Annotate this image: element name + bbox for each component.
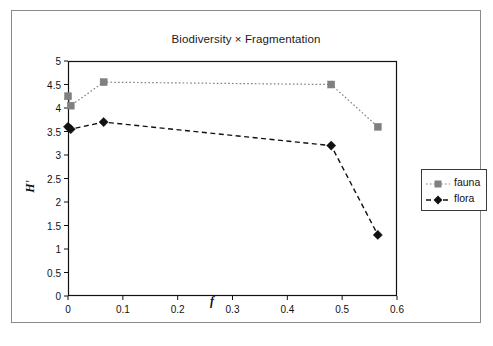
plot-area: 00.511.522.533.544.55 00.10.20.30.40.50.… <box>12 11 482 324</box>
plot-svg <box>12 11 482 324</box>
y-tick-label: 0.5 <box>47 267 61 278</box>
y-tick-label: 4 <box>55 103 61 114</box>
legend-label: flora <box>454 193 474 204</box>
data-point-fauna-0 <box>65 93 72 100</box>
series-line-flora <box>68 122 378 235</box>
y-tick-label: 2 <box>55 197 61 208</box>
data-point-fauna-2 <box>100 79 107 86</box>
figure-frame: Biodiversity × Fragmentation 00.511.522.… <box>11 10 481 323</box>
data-point-fauna-4 <box>374 123 381 130</box>
y-axis-title: H' <box>23 180 38 193</box>
y-tick-label: 1 <box>55 244 61 255</box>
y-tick-label: 1.5 <box>47 220 61 231</box>
y-tick-label: 3.5 <box>47 126 61 137</box>
legend-swatch-diamond-icon <box>425 192 451 204</box>
legend-swatch-square-icon <box>425 176 451 188</box>
data-point-fauna-3 <box>328 81 335 88</box>
data-point-flora-3 <box>327 141 336 150</box>
data-point-fauna-1 <box>67 102 74 109</box>
y-tick-label: 3 <box>55 150 61 161</box>
data-point-flora-2 <box>99 118 108 127</box>
y-tick-label: 2.5 <box>47 173 61 184</box>
x-axis-title: f <box>12 294 412 309</box>
chart-legend: faunaflora <box>421 169 487 211</box>
data-point-flora-4 <box>373 230 382 239</box>
legend-item-flora[interactable]: flora <box>425 190 482 206</box>
legend-item-fauna[interactable]: fauna <box>425 174 482 190</box>
y-tick-label: 5 <box>55 56 61 67</box>
series-line-fauna <box>68 82 378 127</box>
y-tick-label: 4.5 <box>47 79 61 90</box>
legend-label: fauna <box>454 177 480 188</box>
